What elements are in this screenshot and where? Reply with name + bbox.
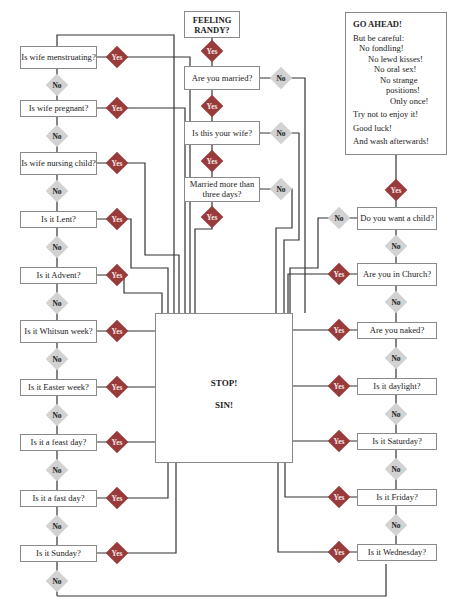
question-box-left: Is it Whitsun week? [20,320,97,343]
question-label: Is it Lent? [41,214,76,224]
question-label: Is it a feast day? [31,437,87,447]
no-diamond: No [385,458,407,480]
connector-line [195,217,212,313]
question-label: FEELING RANDY? [185,15,239,35]
yes-diamond: Yes [328,375,350,397]
no-diamond: No [385,235,407,257]
yes-label: Yes [207,102,218,111]
question-box-center: Is this your wife? [184,121,260,145]
no-diamond: No [46,74,68,96]
question-box-left: Is wife pregnant? [20,100,97,117]
no-label: No [52,132,61,141]
question-box-left: Is it Sunday? [20,545,97,562]
yes-diamond: Yes [106,487,128,509]
connector-line [260,133,299,313]
no-diamond: No [46,292,68,314]
question-label: Is it daylight? [373,381,420,391]
go-ahead-line: Only once! [353,96,446,107]
yes-label: Yes [112,327,123,336]
yes-diamond: Yes [328,541,350,563]
question-box-right: Are you naked? [357,322,437,339]
no-label: No [52,299,61,308]
no-diamond: No [46,459,68,481]
yes-diamond: Yes [201,40,223,62]
connector-line [97,163,179,313]
question-label: Are you naked? [370,325,424,335]
yes-label: Yes [334,493,345,502]
no-label: No [391,465,400,474]
question-label: Is it Saturday? [372,436,422,446]
yes-label: Yes [112,438,123,447]
no-diamond: No [46,570,68,592]
question-label: Is wife pregnant? [29,103,89,113]
yes-diamond: Yes [201,206,223,228]
yes-label: Yes [334,326,345,335]
yes-diamond: Yes [106,431,128,453]
question-label: Is wife nursing child? [21,158,96,168]
no-diamond: No [46,348,68,370]
yes-diamond: Yes [201,150,223,172]
yes-diamond: Yes [106,320,128,342]
yes-diamond: Yes [201,95,223,117]
connector-line [57,564,386,596]
no-label: No [52,355,61,364]
yes-diamond: Yes [328,319,350,341]
question-label: Is it Whitsun week? [24,326,92,336]
no-diamond: No [270,67,292,89]
yes-diamond: Yes [106,46,128,68]
no-label: No [52,466,61,475]
question-box-left: Is it Easter week? [20,379,97,396]
question-label: Is it a fast day? [32,493,84,503]
no-diamond: No [328,207,350,229]
go-ahead-line: No strange [353,75,446,86]
go-ahead-line: Try not to enjoy it! [353,109,446,120]
yes-diamond: Yes [328,263,350,285]
stop-label: STOP! [156,378,292,388]
start-box: FEELING RANDY? [184,11,240,38]
yes-label: Yes [207,47,218,56]
question-box-center: Married more than three days? [184,177,260,202]
stop-sin-box: STOP! SIN! [155,313,293,463]
question-label: Is it Friday? [376,492,418,502]
yes-label: Yes [112,549,123,558]
yes-label: Yes [207,157,218,166]
yes-label: Yes [112,159,123,168]
question-label: Is it Advent? [37,270,81,280]
yes-label: Yes [112,53,123,62]
connector-line [260,189,292,313]
go-ahead-line: And wash afterwards! [353,136,446,147]
question-box-left: Is it Lent? [20,211,97,228]
yes-label: Yes [334,437,345,446]
question-box-left: Is it Advent? [20,267,97,284]
go-ahead-line: positions! [353,85,446,96]
no-diamond: No [385,514,407,536]
yes-label: Yes [391,186,402,195]
yes-label: Yes [112,494,123,503]
no-diamond: No [46,125,68,147]
question-label: Are you married? [192,73,253,83]
go-ahead-line: No oral sex! [353,64,446,75]
yes-label: Yes [334,270,345,279]
no-label: No [52,577,61,586]
no-label: No [391,354,400,363]
yes-label: Yes [112,215,123,224]
no-diamond: No [385,347,407,369]
question-box-right: Do you want a child? [357,207,437,230]
question-label: Are you in Church? [363,269,431,279]
yes-label: Yes [334,548,345,557]
go-ahead-line: But be careful: [353,33,446,44]
no-label: No [276,74,285,83]
question-box-left: Is wife nursing child? [20,152,97,175]
no-label: No [334,214,343,223]
question-box-center: Are you married? [184,66,260,90]
question-box-left: Is wife menstruating? [20,46,97,69]
question-label: Do you want a child? [360,213,434,223]
yes-diamond: Yes [106,97,128,119]
question-label: Is it Easter week? [28,382,89,392]
yes-label: Yes [112,104,123,113]
question-box-left: Is it a fast day? [20,490,97,507]
no-label: No [391,298,400,307]
no-diamond: No [385,291,407,313]
yes-label: Yes [112,271,123,280]
no-diamond: No [270,178,292,200]
